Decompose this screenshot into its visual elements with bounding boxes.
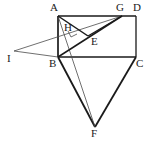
vertex-label-F: F bbox=[91, 128, 97, 139]
segment-AE bbox=[58, 16, 88, 36]
vertex-label-B: B bbox=[49, 58, 56, 69]
vertex-label-E: E bbox=[91, 36, 98, 47]
vertex-label-A: A bbox=[50, 2, 58, 13]
vertex-label-D: D bbox=[133, 2, 141, 13]
geometry-canvas bbox=[0, 0, 152, 143]
vertex-label-G: G bbox=[116, 2, 124, 13]
segment-CF bbox=[95, 57, 136, 127]
geometry-figure: A G D H E I B C F bbox=[0, 0, 152, 143]
vertex-label-H: H bbox=[64, 22, 72, 33]
vertex-label-I: I bbox=[7, 53, 11, 64]
vertex-label-C: C bbox=[136, 58, 143, 69]
segment-BF bbox=[58, 57, 95, 127]
